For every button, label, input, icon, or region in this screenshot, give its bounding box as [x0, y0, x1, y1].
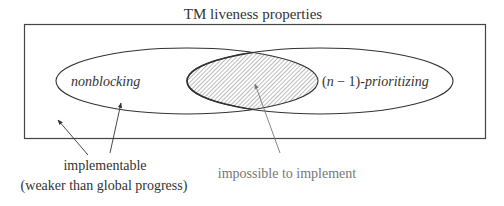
- nonblocking-label: nonblocking: [71, 74, 140, 89]
- diagram-title: TM liveness properties: [184, 6, 322, 22]
- arrow-to-outside-icon: [58, 120, 88, 155]
- prioritizing-label: (n − 1)-prioritizing: [322, 74, 429, 90]
- venn-diagram: TM liveness properties nonblocking (n − …: [0, 0, 504, 206]
- implementable-label: implementable: [63, 158, 146, 173]
- impossible-label: impossible to implement: [218, 166, 357, 181]
- implementable-sublabel: (weaker than global progress): [21, 178, 188, 194]
- arrow-to-nonblocking-icon: [110, 103, 121, 153]
